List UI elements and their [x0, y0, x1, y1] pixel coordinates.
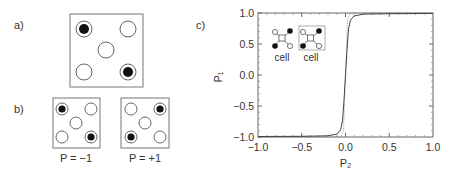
panel-c-label: c) [196, 19, 205, 31]
plot-area [258, 13, 433, 137]
inset-caption-2: cell [303, 52, 318, 63]
caption-p-plus: P = +1 [129, 152, 161, 164]
svg-text:−0.5: −0.5 [233, 100, 254, 112]
panel-b-label: b) [14, 103, 24, 115]
svg-text:0.5: 0.5 [382, 141, 397, 153]
svg-text:−1.0: −1.0 [248, 141, 269, 153]
figure: a) b) P = −1 P = +1 c) [0, 0, 455, 176]
y-tick-labels: 1.0 0.5 0.0 −0.5 −1.0 [233, 7, 254, 143]
panel-b-cell-minus [53, 98, 100, 148]
svg-text:0.5: 0.5 [239, 38, 254, 50]
series-solid [258, 14, 433, 137]
dot-center-empty [98, 42, 114, 58]
dot-bottom-left-empty [76, 64, 92, 80]
svg-text:1.0: 1.0 [426, 141, 441, 153]
dot-bottom-right-filled [120, 64, 136, 80]
svg-text:1.0: 1.0 [239, 7, 254, 19]
caption-p-minus: P = −1 [60, 152, 92, 164]
dot-top-right-empty [120, 21, 136, 37]
y-axis-title: P₁ [212, 71, 224, 82]
panel-a-cell [70, 14, 143, 87]
inset-caption-1: cell [274, 52, 289, 63]
svg-text:0.0: 0.0 [338, 141, 353, 153]
dot-top-left-filled [76, 21, 92, 37]
svg-text:−0.5: −0.5 [291, 141, 312, 153]
x-axis-title: P₂ [340, 157, 352, 169]
svg-text:0.0: 0.0 [239, 69, 254, 81]
panel-a-label: a) [14, 19, 24, 31]
inset-cell-1 [272, 28, 293, 49]
inset-cell-2 [299, 26, 325, 50]
panel-b-cell-plus [121, 98, 169, 148]
x-tick-labels: −1.0 −0.5 0.0 0.5 1.0 [248, 141, 441, 153]
